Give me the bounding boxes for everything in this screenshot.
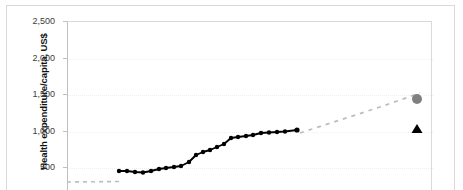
projected-trend-line [67, 93, 420, 182]
black-triangle-marker [412, 124, 423, 133]
observed-series-markers [117, 127, 300, 174]
series-layer [0, 0, 463, 190]
grey-circle-marker [412, 94, 422, 104]
chart-figure: Health expenditure/capita, US$ 2,500 2,0… [0, 0, 463, 190]
observed-series-line [119, 130, 297, 173]
